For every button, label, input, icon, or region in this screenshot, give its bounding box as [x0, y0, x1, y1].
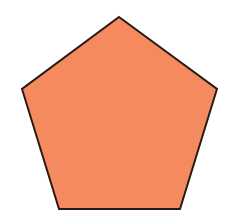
- pentagon-shape: [22, 17, 217, 209]
- diagram-canvas: [0, 0, 232, 218]
- pentagon-figure: [0, 0, 232, 218]
